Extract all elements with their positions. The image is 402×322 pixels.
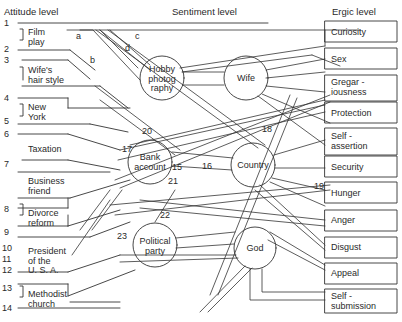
path-label-21: 21 [168,177,178,186]
path-label-d: d [125,44,130,53]
erg-disgust: Disgust [331,243,361,252]
attitude-brackets [20,29,23,297]
erg-curiosity: Curiosity [331,28,366,37]
path-label-22: 22 [160,211,170,220]
attitude-level-header: Attitude level [4,7,58,16]
erg-self-assertion: Self - assertion [331,132,368,151]
erg-self-submission: Self - submission [331,292,376,311]
erg-sex: Sex [331,55,347,64]
attitude-divorce-reform: Divorce reform [28,209,59,228]
attitude-new-york: New York [28,103,46,122]
path-label-18: 18 [262,125,272,134]
erg-security: Security [331,163,364,172]
sentiment-political-party: Political party [133,237,177,256]
sentiment-country: Country [230,161,276,170]
path-label-a: a [76,32,81,41]
line-number: 5 [4,117,9,126]
line-number: 13 [2,284,12,293]
line-number: 4 [4,94,9,103]
line-number: 10 [2,244,12,253]
path-label-20: 20 [142,127,152,136]
erg-anger: Anger [331,216,355,225]
path-label-c: c [135,32,140,41]
line-number: 3 [4,56,9,65]
attitude-taxation: Taxation [28,145,62,155]
attitude-business-friend: Business friend [28,177,65,196]
line-number: 6 [4,130,9,139]
path-label-19: 19 [314,182,324,191]
erg-appeal: Appeal [331,269,359,278]
line-number: 1 [4,19,9,28]
attitude-president-usa: President of the U. S. A. [28,247,66,276]
line-number: 14 [2,304,12,313]
line-number: 9 [4,228,9,237]
line-number: 8 [4,205,9,214]
erg-protection: Protection [331,109,372,118]
sentiment-wife: Wife [226,74,266,83]
path-label-b: b [90,56,95,65]
sentiment-god: God [235,244,275,253]
lattice-paths [67,30,360,312]
sentiment-bank-account: Bank account [128,153,172,172]
path-label-15: 15 [172,163,182,172]
attitude-film-play: Film play [28,28,45,47]
sentiment-hobby-photography: Hobby photog raphy [142,65,182,94]
line-number: 11 [2,255,11,264]
erg-gregariousness: Gregar - iousness [331,78,367,97]
erg-hunger: Hunger [331,189,361,198]
line-number: 7 [4,160,9,169]
path-label-23: 23 [117,232,127,241]
line-number: 2 [4,45,9,54]
path-label-16: 16 [202,162,212,171]
line-number: 12 [2,266,12,275]
attitude-wifes-hair-style: Wife's hair style [28,66,64,85]
path-label-17: 17 [122,145,132,154]
ergic-level-header: Ergic level [332,7,376,16]
sentiment-level-header: Sentiment level [172,7,237,16]
attitude-methodist-church: Methodist church [28,290,67,309]
